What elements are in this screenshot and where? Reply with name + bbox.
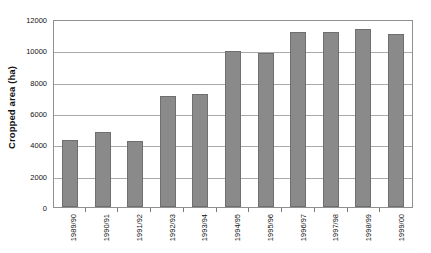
bar — [160, 96, 176, 207]
bar-chart: Cropped area (ha) 0200040006000800010000… — [0, 0, 431, 253]
y-axis-title: Cropped area (ha) — [0, 0, 22, 215]
bar-slot — [347, 21, 380, 207]
x-tick-label: 1993/94 — [200, 214, 209, 241]
x-tick-label: 1989/90 — [69, 214, 78, 241]
y-tick-label: 6000 — [30, 110, 47, 119]
bar-slot — [87, 21, 120, 207]
x-label-slot: 1992/93 — [151, 212, 184, 253]
bar — [225, 51, 241, 207]
x-axis-tick-labels: 1989/901990/911991/921992/931993/941994/… — [53, 212, 413, 253]
bar — [192, 94, 208, 207]
x-tick-label: 1994/95 — [233, 214, 242, 241]
x-tick-label: 1999/00 — [397, 214, 406, 241]
bar-series — [54, 21, 412, 207]
bar-slot — [249, 21, 282, 207]
bar-slot — [54, 21, 87, 207]
x-label-slot: 1999/00 — [380, 212, 413, 253]
y-tick-label: 12000 — [26, 16, 47, 25]
x-tick-label: 1992/93 — [168, 214, 177, 241]
plot-area — [53, 20, 413, 208]
x-label-slot: 1998/99 — [348, 212, 381, 253]
x-tick-label: 1990/91 — [102, 214, 111, 241]
y-tick-label: 10000 — [26, 47, 47, 56]
bar-slot — [184, 21, 217, 207]
y-tick-label: 0 — [43, 204, 47, 213]
y-axis-title-label: Cropped area (ha) — [6, 66, 17, 149]
bar-slot — [217, 21, 250, 207]
bar — [323, 32, 339, 207]
bar — [355, 29, 371, 207]
bar — [388, 34, 404, 207]
y-axis-tick-labels: 020004000600080001000012000 — [22, 14, 50, 208]
bar — [290, 32, 306, 207]
x-tick-label: 1991/92 — [135, 214, 144, 241]
bar — [62, 140, 78, 207]
x-label-slot: 1995/96 — [249, 212, 282, 253]
x-label-slot: 1989/90 — [53, 212, 86, 253]
x-tick-label: 1997/98 — [331, 214, 340, 241]
bar — [127, 141, 143, 207]
y-tick-label: 2000 — [30, 172, 47, 181]
x-label-slot: 1993/94 — [184, 212, 217, 253]
x-label-slot: 1997/98 — [315, 212, 348, 253]
y-tick-label: 4000 — [30, 141, 47, 150]
bar-slot — [152, 21, 185, 207]
x-tick-label: 1996/97 — [299, 214, 308, 241]
bar-slot — [119, 21, 152, 207]
bar-slot — [282, 21, 315, 207]
bar — [258, 53, 274, 207]
bar — [95, 132, 111, 207]
x-label-slot: 1994/95 — [217, 212, 250, 253]
x-tick-label: 1998/99 — [364, 214, 373, 241]
y-tick-label: 8000 — [30, 78, 47, 87]
x-label-slot: 1991/92 — [118, 212, 151, 253]
bar-slot — [314, 21, 347, 207]
x-label-slot: 1990/91 — [86, 212, 119, 253]
x-tick-label: 1995/96 — [266, 214, 275, 241]
x-label-slot: 1996/97 — [282, 212, 315, 253]
bar-slot — [379, 21, 412, 207]
